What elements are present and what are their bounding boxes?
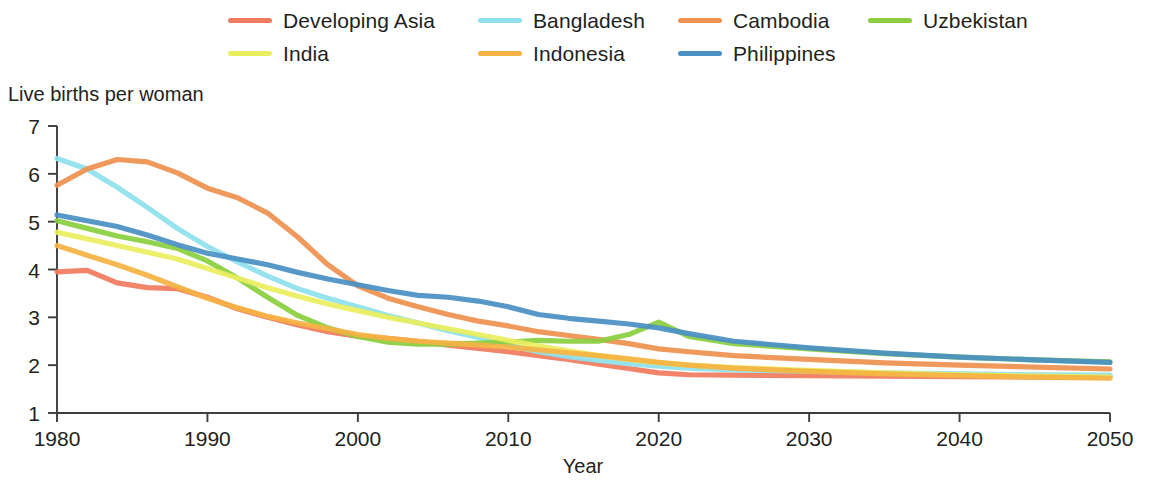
plot-area: 123456719801990200020102020203020402050 (0, 0, 1166, 483)
x-tick-label: 2010 (485, 427, 532, 450)
y-tick-label: 7 (28, 115, 40, 138)
y-tick-label: 6 (28, 163, 40, 186)
y-tick-label: 2 (28, 354, 40, 377)
y-tick-label: 1 (28, 402, 40, 425)
x-tick-label: 2040 (936, 427, 983, 450)
y-tick-label: 4 (28, 259, 40, 282)
x-tick-label: 2000 (334, 427, 381, 450)
x-tick-label: 2050 (1087, 427, 1134, 450)
x-axis-title: Year (0, 455, 1166, 478)
y-tick-label: 3 (28, 306, 40, 329)
y-tick-label: 5 (28, 211, 40, 234)
x-tick-label: 1990 (184, 427, 231, 450)
series-line-developing-asia (57, 270, 1110, 377)
x-tick-label: 2030 (786, 427, 833, 450)
x-tick-label: 2020 (635, 427, 682, 450)
x-tick-label: 1980 (34, 427, 81, 450)
fertility-rate-line-chart: Developing AsiaBangladeshCambodiaUzbekis… (0, 0, 1166, 483)
series-line-uzbekistan (57, 221, 1110, 362)
